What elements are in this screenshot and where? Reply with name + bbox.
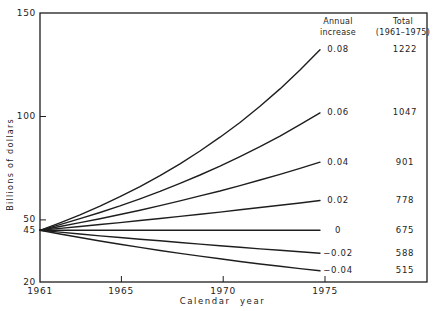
total-label--0.02: 588 bbox=[385, 248, 425, 259]
total-column-header-line1: Total bbox=[393, 17, 413, 26]
x-tick-label-1961: 1961 bbox=[25, 286, 55, 297]
total-column-header-line2: (1961–1975) bbox=[376, 28, 430, 37]
y-tick-label-100: 100 bbox=[8, 111, 36, 122]
total-label-0.06: 1047 bbox=[385, 107, 425, 118]
rate-label-0.04: 0.04 bbox=[318, 157, 358, 168]
total-label-0.02: 778 bbox=[385, 195, 425, 206]
growth-curve-0.02 bbox=[40, 201, 320, 231]
rate-label-0.08: 0.08 bbox=[318, 44, 358, 55]
plot-frame bbox=[40, 13, 427, 282]
x-tick-label-1975: 1975 bbox=[310, 286, 340, 297]
x-tick-label-1970: 1970 bbox=[208, 286, 238, 297]
total-label-0.08: 1222 bbox=[385, 44, 425, 55]
rate-label-0.02: 0.02 bbox=[318, 195, 358, 206]
annual-increase-header-line1: Annual bbox=[323, 17, 353, 26]
growth-curve--0.02 bbox=[40, 230, 320, 253]
y-tick-label-45: 45 bbox=[8, 225, 36, 236]
rate-label--0.02: −0.02 bbox=[318, 248, 358, 259]
total-label-0: 675 bbox=[385, 225, 425, 236]
growth-curve-0.06 bbox=[40, 113, 320, 230]
rate-label-0: 0 bbox=[318, 225, 358, 236]
annual-increase-header: Annual increase bbox=[308, 16, 368, 38]
total-label--0.04: 515 bbox=[385, 265, 425, 276]
chart-canvas bbox=[0, 0, 437, 311]
y-axis-title: Billions of dollars bbox=[6, 118, 15, 211]
annual-increase-header-line2: increase bbox=[320, 28, 356, 37]
growth-curve-0.08 bbox=[40, 50, 320, 231]
y-tick-label-150: 150 bbox=[8, 8, 36, 19]
projection-chart: Billions of dollars Calendar year Annual… bbox=[0, 0, 437, 311]
rate-label--0.04: −0.04 bbox=[318, 265, 358, 276]
rate-label-0.06: 0.06 bbox=[318, 107, 358, 118]
growth-curve-0.04 bbox=[40, 162, 320, 230]
total-column-header: Total (1961–1975) bbox=[368, 16, 437, 38]
x-axis-title: Calendar year bbox=[150, 296, 295, 306]
total-label-0.04: 901 bbox=[385, 157, 425, 168]
x-tick-label-1965: 1965 bbox=[106, 286, 136, 297]
y-tick-label-50: 50 bbox=[8, 214, 36, 225]
